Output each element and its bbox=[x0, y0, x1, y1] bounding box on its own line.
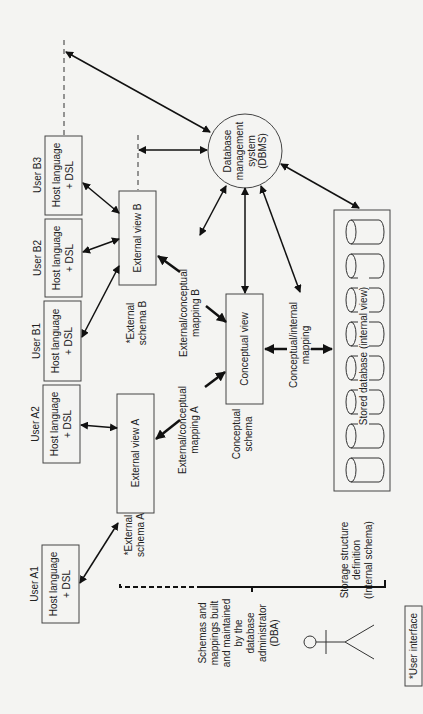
svg-text:*User interface: *User interface bbox=[408, 612, 419, 679]
svg-text:+ DSL: + DSL bbox=[62, 410, 73, 439]
svg-text:Conceptual view: Conceptual view bbox=[239, 312, 250, 386]
svg-text:mapping: mapping bbox=[300, 326, 311, 364]
mapping-label-b: External/conceptual mapping B bbox=[178, 269, 201, 357]
arrow-a2-to-view-a bbox=[81, 425, 117, 428]
svg-text:schema B: schema B bbox=[137, 300, 148, 345]
arrow-dbms-to-mapping-b bbox=[200, 186, 226, 235]
user-label-a1: User A1 bbox=[29, 566, 40, 602]
stored-database: Stored database (internal view) bbox=[334, 210, 390, 491]
svg-text:definition: definition bbox=[351, 540, 362, 580]
svg-text:(DBMS): (DBMS) bbox=[257, 133, 268, 169]
arrow-dbms-to-storage bbox=[281, 164, 359, 208]
svg-text:External view B: External view B bbox=[132, 203, 143, 272]
user-label-a2: User A2 bbox=[30, 406, 41, 442]
svg-text:Host language: Host language bbox=[48, 551, 59, 616]
svg-text:Host language: Host language bbox=[51, 142, 62, 207]
svg-text:administrator: administrator bbox=[257, 603, 268, 661]
svg-text:mapping B: mapping B bbox=[190, 289, 201, 337]
svg-text:mappings built: mappings built bbox=[209, 601, 220, 666]
svg-text:Host language: Host language bbox=[49, 391, 60, 456]
database-architecture-diagram: Host language + DSL User A1 Host languag… bbox=[0, 0, 423, 714]
arrow-dbms-to-internal-mapping bbox=[261, 186, 300, 292]
svg-text:External/conceptual: External/conceptual bbox=[178, 269, 189, 357]
svg-text:(DBA): (DBA) bbox=[269, 619, 280, 646]
svg-text:and maintained: and maintained bbox=[221, 599, 232, 667]
svg-text:Database: Database bbox=[222, 129, 233, 172]
svg-text:schema A: schema A bbox=[135, 513, 146, 557]
arrow-mapping-a-to-conceptual bbox=[205, 372, 225, 387]
user-label-b1: User B1 bbox=[31, 323, 42, 360]
external-schema-b-label: *External bbox=[125, 303, 136, 344]
svg-text:system: system bbox=[246, 135, 257, 167]
user-box-a1: Host language + DSL User A1 bbox=[29, 545, 79, 623]
svg-text:+ DSL: + DSL bbox=[64, 244, 75, 273]
svg-text:management: management bbox=[234, 122, 245, 181]
user-box-a2: Host language + DSL User A2 bbox=[30, 385, 80, 463]
svg-text:Schemas and: Schemas and bbox=[197, 602, 208, 663]
svg-text:Host language: Host language bbox=[50, 308, 61, 373]
svg-text:Stored database (internal view: Stored database (internal view) bbox=[358, 287, 369, 425]
svg-text:Host language: Host language bbox=[51, 225, 62, 290]
conceptual-view: Conceptual view Conceptual schema bbox=[226, 294, 263, 459]
arrow-a1-to-view-a bbox=[80, 523, 118, 583]
svg-text:Conceptual/internal: Conceptual/internal bbox=[288, 302, 299, 388]
user-interface-legend: *User interface bbox=[405, 606, 422, 686]
svg-text:database: database bbox=[245, 612, 256, 654]
external-view-b: External view B *External schema B bbox=[119, 191, 156, 345]
external-schema-a-label: *External bbox=[123, 515, 134, 556]
mapping-label-a: External/conceptual mapping A bbox=[177, 386, 200, 474]
arrow-ui-b3-to-dbms bbox=[66, 52, 210, 132]
svg-text:by the: by the bbox=[233, 619, 244, 647]
svg-text:External/conceptual: External/conceptual bbox=[177, 386, 188, 474]
dba-label: Schemas and mappings built and maintaine… bbox=[197, 599, 280, 667]
svg-text:mapping A: mapping A bbox=[189, 406, 200, 454]
svg-text:External view A: External view A bbox=[130, 418, 141, 487]
svg-text:+ DSL: + DSL bbox=[61, 570, 72, 599]
arrows bbox=[66, 52, 359, 583]
arrow-b1-to-view-b bbox=[82, 266, 119, 337]
mapping-label-conceptual-internal: Conceptual/internal mapping bbox=[288, 302, 311, 388]
conceptual-schema-label: Conceptual bbox=[231, 409, 242, 460]
svg-text:+ DSL: + DSL bbox=[63, 327, 74, 356]
svg-text:+ DSL: + DSL bbox=[64, 161, 75, 190]
arrow-b2-to-view-b bbox=[83, 239, 119, 252]
svg-text:schema: schema bbox=[243, 416, 254, 451]
dbms-circle: Database management system (DBMS) bbox=[208, 114, 282, 188]
arrow-mapping-b-to-conceptual bbox=[206, 306, 226, 322]
user-box-b3: Host language + DSL User B3 bbox=[32, 136, 82, 215]
user-label-b2: User B2 bbox=[32, 240, 43, 277]
user-box-b2: Host language + DSL User B2 bbox=[32, 219, 82, 297]
dba-person-icon bbox=[304, 625, 374, 659]
external-view-a: External view A *External schema A bbox=[117, 394, 154, 557]
arrow-b3-to-view-b bbox=[83, 183, 119, 213]
user-box-b1: Host language + DSL User B1 bbox=[31, 301, 81, 381]
user-label-b3: User B3 bbox=[32, 157, 43, 194]
arrow-mapping-b-to-view-b bbox=[158, 256, 180, 272]
